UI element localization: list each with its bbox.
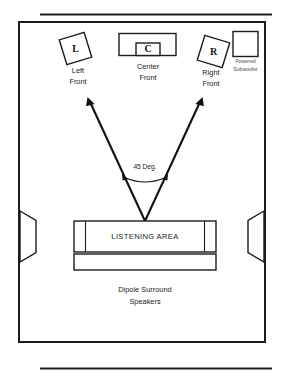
listening-area-seat-base: [74, 254, 216, 270]
center-front-speaker-glyph: C: [144, 43, 151, 54]
dipole-surround-left-shape: [20, 211, 36, 262]
center-front-label-line2: Front: [139, 73, 156, 82]
powered-subwoofer: Powered Subwoofer: [233, 32, 258, 72]
left-front-label-line2: Front: [69, 77, 86, 86]
angle-label: 45 Deg.: [133, 163, 156, 171]
right-front-label-line2: Front: [202, 79, 219, 88]
speaker-placement-diagram: L Left Front C Center Front R Right Fron…: [0, 0, 284, 377]
dipole-surround-label-line2: Speakers: [129, 297, 161, 306]
powered-subwoofer-label-line1: Powered: [235, 58, 255, 64]
left-front-label-line1: Left: [72, 66, 84, 75]
listening-area-label: LISTENING AREA: [111, 232, 179, 241]
dipole-surround-label-line1: Dipole Surround: [118, 285, 171, 294]
left-front-speaker-glyph: L: [72, 43, 79, 54]
dipole-surround-left: [20, 211, 36, 262]
powered-subwoofer-box: [233, 32, 258, 57]
listening-area: LISTENING AREA: [74, 221, 216, 270]
powered-subwoofer-label-line2: Subwoofer: [233, 66, 258, 72]
dipole-surround-right: [248, 211, 264, 262]
right-front-label-line1: Right: [202, 68, 219, 77]
dipole-surround-right-shape: [248, 211, 264, 262]
right-front-speaker-glyph: R: [210, 46, 218, 57]
center-front-label-line1: Center: [137, 62, 160, 71]
